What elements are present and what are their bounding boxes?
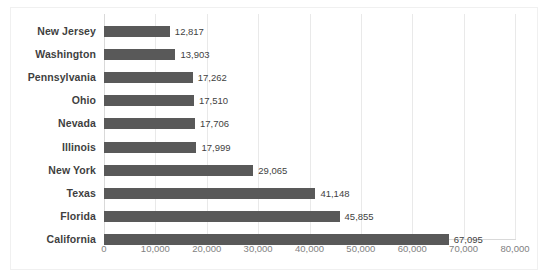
bar <box>104 165 253 176</box>
bar-row: Ohio17,510 <box>0 89 550 112</box>
bar-value-label: 17,262 <box>198 66 227 89</box>
bar-value-label: 17,999 <box>201 136 230 159</box>
x-tick-label: 0 <box>101 243 106 254</box>
bar-row: New Jersey12,817 <box>0 20 550 43</box>
x-axis-tick-labels: 010,00020,00030,00040,00050,00060,00070,… <box>0 243 550 261</box>
bar-value-label: 17,706 <box>200 112 229 135</box>
bar-row: Washington13,903 <box>0 43 550 66</box>
category-label: New Jersey <box>0 20 96 43</box>
x-tick-label: 60,000 <box>398 243 427 254</box>
bar-value-label: 41,148 <box>320 182 349 205</box>
bar-row: Nevada17,706 <box>0 112 550 135</box>
bar <box>104 211 340 222</box>
x-tick-label: 80,000 <box>500 243 529 254</box>
bar-value-label: 29,065 <box>258 159 287 182</box>
bar-row: Pennsylvania17,262 <box>0 66 550 89</box>
bar-value-label: 13,903 <box>180 43 209 66</box>
x-tick-label: 40,000 <box>295 243 324 254</box>
bar <box>104 95 194 106</box>
bar-value-label: 12,817 <box>175 20 204 43</box>
bar-value-label: 45,855 <box>345 205 374 228</box>
bar <box>104 26 170 37</box>
category-label: Nevada <box>0 112 96 135</box>
x-tick-label: 10,000 <box>141 243 170 254</box>
bar <box>104 72 193 83</box>
x-tick-label: 50,000 <box>346 243 375 254</box>
category-label: Pennsylvania <box>0 66 96 89</box>
x-tick-label: 30,000 <box>244 243 273 254</box>
category-label: Texas <box>0 182 96 205</box>
category-label: Florida <box>0 205 96 228</box>
bar-row: Texas41,148 <box>0 182 550 205</box>
category-label: New York <box>0 159 96 182</box>
bar-value-label: 17,510 <box>199 89 228 112</box>
bar-row: Illinois17,999 <box>0 136 550 159</box>
bar-row: Florida45,855 <box>0 205 550 228</box>
bar-chart: New Jersey12,817Washington13,903Pennsylv… <box>0 0 550 279</box>
bar <box>104 142 196 153</box>
category-label: Illinois <box>0 136 96 159</box>
bar-row: New York29,065 <box>0 159 550 182</box>
category-label: Washington <box>0 43 96 66</box>
bar <box>104 49 175 60</box>
bar <box>104 188 315 199</box>
bar <box>104 118 195 129</box>
x-tick-label: 20,000 <box>192 243 221 254</box>
x-tick-label: 70,000 <box>449 243 478 254</box>
category-label: Ohio <box>0 89 96 112</box>
